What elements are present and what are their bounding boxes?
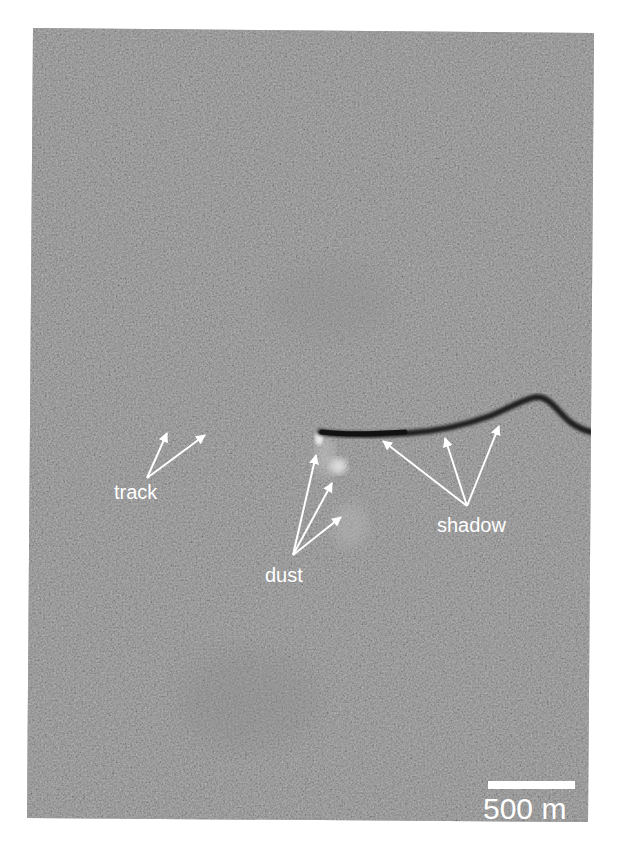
scale-bar: 500 m (483, 781, 575, 825)
dust-label: dust (265, 564, 303, 586)
scale-bar-label: 500 m (483, 792, 566, 825)
scale-bar-line (488, 781, 575, 789)
shadow-label: shadow (437, 514, 506, 536)
dust-devil-figure: track dust shadow 500 m (0, 0, 620, 847)
track-label: track (114, 481, 158, 503)
terrain-image (20, 20, 610, 830)
